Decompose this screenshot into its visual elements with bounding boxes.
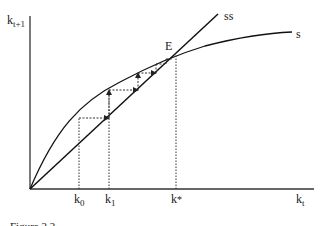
ss-line <box>30 14 218 189</box>
y-axis-label: kt+1 <box>7 13 25 29</box>
cobweb-diagram: kt+1 ss s E k0 k1 k* kt Figure 3.3 <box>0 0 327 226</box>
figure-caption: Figure 3.3 <box>10 220 56 226</box>
x-axis-label: kt <box>296 192 305 208</box>
ss-label: ss <box>224 9 234 23</box>
cobweb-steps <box>79 59 172 118</box>
equilibrium-label: E <box>165 39 172 53</box>
tick-k1: k1 <box>105 192 116 208</box>
s-curve <box>30 32 292 189</box>
tick-k0: k0 <box>74 192 85 208</box>
tick-kstar: k* <box>171 192 182 206</box>
s-label: s <box>296 27 301 41</box>
